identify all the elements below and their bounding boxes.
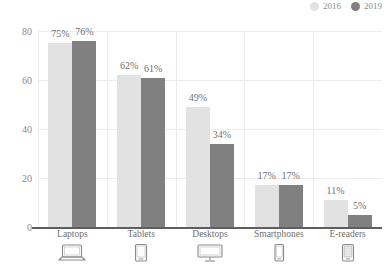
group-separator <box>313 31 314 227</box>
laptop-icon <box>57 243 87 267</box>
category-label: Laptops <box>57 230 88 240</box>
category-desktops: Desktops <box>176 230 245 267</box>
chart-legend: 2016 2019 <box>310 2 382 11</box>
bar-group-smartphones: 17% 17% <box>244 31 313 227</box>
bar-tablets-2019[interactable]: 61% <box>141 78 165 227</box>
bar-value-label: 49% <box>189 93 207 103</box>
category-smartphones: Smartphones <box>244 230 313 267</box>
category-laptops: Laptops <box>38 230 107 267</box>
y-tick-label: 40 <box>22 124 32 135</box>
legend-item-2019[interactable]: 2019 <box>351 2 382 11</box>
ereader-icon <box>333 243 363 267</box>
category-ereaders: E-readers <box>313 230 382 267</box>
bar-value-label: 75% <box>51 29 69 39</box>
bar-group-desktops: 49% 34% <box>176 31 245 227</box>
smartphone-icon <box>264 243 294 267</box>
bar-laptops-2016[interactable]: 75% <box>48 43 72 227</box>
bar-ereaders-2016[interactable]: 11% <box>324 200 348 227</box>
x-axis-categories: Laptops Tablets Desktops <box>38 230 382 267</box>
bar-smartphones-2016[interactable]: 17% <box>255 185 279 227</box>
group-separator <box>244 31 245 227</box>
bar-value-label: 62% <box>120 61 138 71</box>
bar-group-laptops: 75% 76% <box>38 31 107 227</box>
legend-label-2016: 2016 <box>323 2 341 11</box>
y-tick-label: 20 <box>22 173 32 184</box>
grouped-bar-chart: 2016 2019 80 60 40 20 0 75% <box>0 0 388 278</box>
legend-swatch-2019 <box>351 2 360 11</box>
y-tick-label: 80 <box>22 26 32 37</box>
desktop-icon <box>195 243 225 267</box>
bar-desktops-2019[interactable]: 34% <box>210 144 234 227</box>
category-tablets: Tablets <box>107 230 176 267</box>
bar-value-label: 76% <box>75 27 93 37</box>
y-axis-labels: 80 60 40 20 0 <box>0 31 34 227</box>
bar-value-label: 34% <box>213 130 231 140</box>
bar-smartphones-2019[interactable]: 17% <box>279 185 303 227</box>
legend-label-2019: 2019 <box>364 2 382 11</box>
y-tick-label: 60 <box>22 75 32 86</box>
bar-group-ereaders: 11% 5% <box>313 31 382 227</box>
bar-groups: 75% 76% 62% 61% <box>38 31 382 227</box>
category-label: Desktops <box>192 230 227 240</box>
bar-value-label: 5% <box>353 201 366 211</box>
bar-tablets-2016[interactable]: 62% <box>117 75 141 227</box>
category-label: Tablets <box>128 230 155 240</box>
bar-value-label: 61% <box>144 64 162 74</box>
legend-item-2016[interactable]: 2016 <box>310 2 341 11</box>
legend-swatch-2016 <box>310 2 319 11</box>
bar-ereaders-2019[interactable]: 5% <box>348 215 372 227</box>
tablet-icon <box>126 243 156 267</box>
bar-desktops-2016[interactable]: 49% <box>186 107 210 227</box>
bar-value-label: 17% <box>258 171 276 181</box>
group-separator <box>38 31 39 227</box>
plot-area: 75% 76% 62% 61% <box>38 31 382 227</box>
bar-group-tablets: 62% 61% <box>107 31 176 227</box>
category-label: E-readers <box>329 230 365 240</box>
group-separator <box>176 31 177 227</box>
group-separator <box>107 31 108 227</box>
bar-laptops-2019[interactable]: 76% <box>72 41 96 227</box>
bar-value-label: 17% <box>282 171 300 181</box>
category-label: Smartphones <box>254 230 304 240</box>
bar-value-label: 11% <box>327 186 345 196</box>
